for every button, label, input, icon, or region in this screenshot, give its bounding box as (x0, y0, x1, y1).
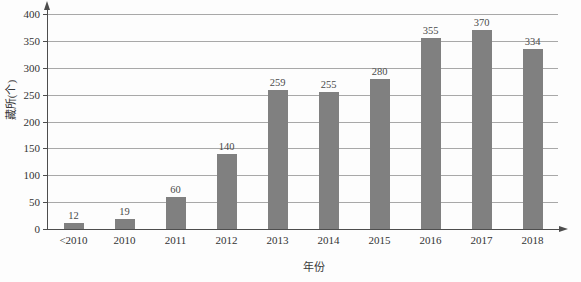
bar-value-label: 255 (321, 79, 337, 90)
bar-value-label: 259 (270, 77, 286, 88)
bar-slot: 12 (48, 14, 99, 229)
y-axis-tick-label: 400 (24, 8, 41, 20)
bar[interactable] (64, 223, 84, 229)
bar[interactable] (217, 154, 237, 229)
plot-area: 400350300250200150100500 121960140259255… (48, 14, 558, 229)
x-axis-tick-label: 2013 (267, 234, 289, 246)
x-axis-tick-label: 2016 (420, 234, 442, 246)
bar-slot: 60 (150, 14, 201, 229)
y-axis-tick-label: 0 (35, 223, 41, 235)
bar-value-label: 140 (219, 141, 235, 152)
bar[interactable] (115, 219, 135, 229)
y-axis-tick-label: 200 (24, 116, 41, 128)
x-axis-tick-label: 2018 (522, 234, 544, 246)
bar-value-label: 334 (525, 36, 541, 47)
bar-value-label: 280 (372, 66, 388, 77)
x-axis-tick-label: 2010 (114, 234, 136, 246)
bar-slot: 280 (354, 14, 405, 229)
bar[interactable] (319, 92, 339, 229)
bar-slot: 19 (99, 14, 150, 229)
y-axis-tick-label: 350 (24, 35, 41, 47)
x-axis-tick-labels: <201020102011201220132014201520162017201… (48, 234, 558, 254)
bar-chart: 藏所(个) 400350300250200150100500 121960140… (0, 0, 581, 282)
y-tick-mark (43, 229, 48, 230)
bar-value-label: 19 (119, 206, 130, 217)
bar-value-label: 370 (474, 17, 490, 28)
bars-group: 121960140259255280355370334 (48, 14, 558, 229)
x-axis-tick-label: 2011 (165, 234, 187, 246)
bar-slot: 334 (507, 14, 558, 229)
bar-slot: 370 (456, 14, 507, 229)
bar[interactable] (268, 90, 288, 229)
x-axis-tick-label: 2012 (216, 234, 238, 246)
bar-slot: 255 (303, 14, 354, 229)
x-axis-tick-label: 2014 (318, 234, 340, 246)
bar[interactable] (370, 79, 390, 230)
bar[interactable] (472, 30, 492, 229)
y-axis-tick-label: 50 (29, 196, 40, 208)
y-axis-tick-label: 250 (24, 89, 41, 101)
bar-slot: 140 (201, 14, 252, 229)
bar-value-label: 355 (423, 25, 439, 36)
y-axis-title: 藏所(个) (2, 72, 18, 128)
x-axis-tick-label: 2015 (369, 234, 391, 246)
x-axis-tick-label: <2010 (59, 234, 87, 246)
bar[interactable] (523, 49, 543, 229)
y-axis-tick-label: 150 (24, 142, 41, 154)
x-axis-title: 年份 (0, 258, 581, 274)
x-axis-tick-label: 2017 (471, 234, 493, 246)
bar[interactable] (421, 38, 441, 229)
y-axis-tick-label: 100 (24, 169, 41, 181)
y-axis-tick: 0 (48, 229, 558, 230)
bar-value-label: 60 (170, 184, 181, 195)
x-axis-arrow-icon (559, 226, 568, 232)
bar-slot: 259 (252, 14, 303, 229)
y-axis-tick-label: 300 (24, 62, 41, 74)
bar-value-label: 12 (68, 210, 79, 221)
bar-slot: 355 (405, 14, 456, 229)
bar[interactable] (166, 197, 186, 229)
